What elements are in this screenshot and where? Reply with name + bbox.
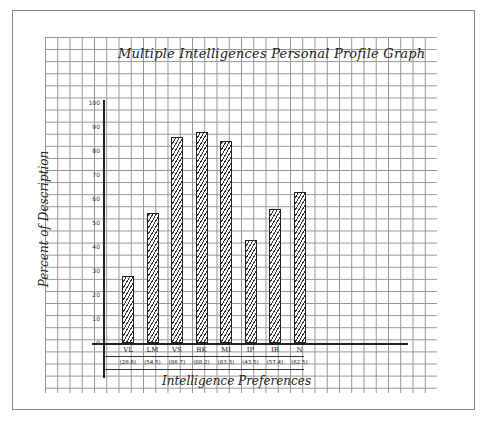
bar-ip [245,240,257,343]
y-tick-label: 0 [84,339,100,346]
value-label: (83.3) [215,359,237,365]
bar-n [294,192,306,343]
value-label: (62.5) [289,359,311,365]
value-label: (88.2) [191,359,213,365]
category-label: LM [142,346,164,354]
y-tick-label: 60 [84,195,100,202]
category-label: IR [264,346,286,354]
value-label: (86.7) [166,359,188,365]
y-tick-label: 80 [84,147,100,154]
category-row-line [104,356,304,357]
category-label: MI [215,346,237,354]
y-axis [103,100,105,378]
category-label: VS [166,346,188,354]
bar-vs [171,137,183,343]
y-tick-label: 40 [84,243,100,250]
value-label: (57.4) [264,359,286,365]
y-tick-label: 70 [84,171,100,178]
category-label: N [289,346,311,354]
x-axis-label: Intelligence Preferences [162,374,311,388]
y-tick-label: 30 [84,267,100,274]
bar-bk [196,132,208,343]
y-tick-label: 100 [84,99,100,106]
value-label: (43.5) [240,359,262,365]
value-label: (28.6) [117,359,139,365]
value-row-line [104,369,304,370]
category-label: IP [240,346,262,354]
y-tick-label: 20 [84,291,100,298]
y-axis-label: Percent of Description [37,149,51,289]
category-label: BK [191,346,213,354]
x-axis [92,343,408,345]
bar-lm [147,213,159,343]
bar-ir [269,209,281,343]
y-tick-label: 10 [84,315,100,322]
value-label: (54.5) [142,359,164,365]
category-label: VL [117,346,139,354]
chart-title: Multiple Intelligences Personal Profile … [118,46,378,61]
bar-mi [220,141,232,343]
bar-vl [122,276,134,343]
y-tick-label: 50 [84,219,100,226]
y-tick-label: 90 [84,123,100,130]
